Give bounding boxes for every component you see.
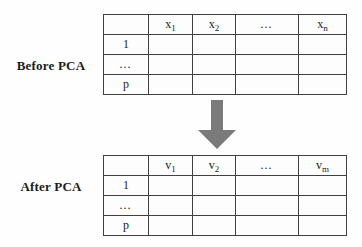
before-pca-label: Before PCA xyxy=(0,58,102,74)
column-header-xn: xn xyxy=(299,15,347,35)
table-row: … xyxy=(104,55,347,75)
column-header-x1: x1 xyxy=(149,15,193,35)
table-row: 1 xyxy=(104,176,347,196)
column-header-ellipsis: … xyxy=(236,156,299,176)
table-cell xyxy=(149,75,193,95)
table-cell xyxy=(236,216,299,236)
row-label-p: p xyxy=(104,75,149,95)
table-cell xyxy=(299,216,347,236)
table-cell xyxy=(149,196,193,216)
row-label-p: p xyxy=(104,216,149,236)
row-label-1: 1 xyxy=(104,35,149,55)
column-header-x2: x2 xyxy=(193,15,236,35)
column-header-v1: v1 xyxy=(149,156,193,176)
row-label-ellipsis: … xyxy=(104,196,149,216)
table-cell xyxy=(299,75,347,95)
header-row: v1 v2 … vm xyxy=(104,156,347,176)
table-cell xyxy=(193,196,236,216)
table-row: p xyxy=(104,216,347,236)
table-cell xyxy=(149,216,193,236)
table-cell xyxy=(236,35,299,55)
column-header-vm: vm xyxy=(299,156,347,176)
table-cell xyxy=(193,35,236,55)
table-cell xyxy=(299,176,347,196)
table-cell xyxy=(236,55,299,75)
table-cell xyxy=(299,55,347,75)
pca-diagram: Before PCA x1 x2 … xn 1 … p xyxy=(0,0,362,247)
table-cell xyxy=(193,176,236,196)
table-row: p xyxy=(104,75,347,95)
column-header-ellipsis: … xyxy=(236,15,299,35)
after-pca-label: After PCA xyxy=(0,179,102,195)
row-label-ellipsis: … xyxy=(104,55,149,75)
table-cell xyxy=(193,55,236,75)
header-row: x1 x2 … xn xyxy=(104,15,347,35)
after-pca-table: v1 v2 … vm 1 … p xyxy=(103,155,347,236)
table-cell xyxy=(149,176,193,196)
table-cell xyxy=(149,35,193,55)
table-cell xyxy=(299,196,347,216)
table-row: 1 xyxy=(104,35,347,55)
column-header-v2: v2 xyxy=(193,156,236,176)
table-cell xyxy=(193,75,236,95)
table-row: … xyxy=(104,196,347,216)
table-cell xyxy=(299,35,347,55)
table-cell xyxy=(236,176,299,196)
before-pca-table: x1 x2 … xn 1 … p xyxy=(103,14,347,95)
table-cell xyxy=(236,75,299,95)
table-cell xyxy=(149,55,193,75)
corner-cell xyxy=(104,15,149,35)
row-label-1: 1 xyxy=(104,176,149,196)
down-arrow-icon xyxy=(195,100,239,149)
table-cell xyxy=(193,216,236,236)
corner-cell xyxy=(104,156,149,176)
table-cell xyxy=(236,196,299,216)
